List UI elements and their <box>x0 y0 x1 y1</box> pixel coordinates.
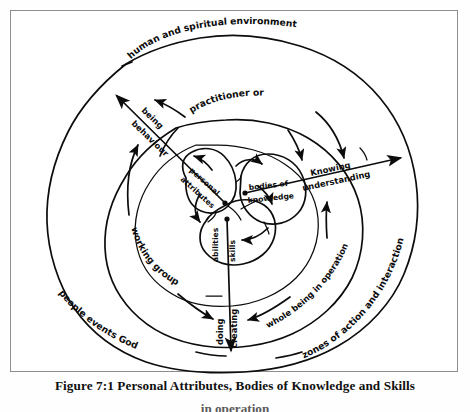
axis-behaviour-label: behaviour <box>130 118 172 159</box>
diagram-canvas: being behaviour Knowing understanding do… <box>0 0 470 412</box>
ring-second-bottom-right-label: whole being in operation <box>264 242 350 330</box>
figure-caption-continued: in operation <box>0 401 470 412</box>
ring-feedback-arrows <box>128 100 367 358</box>
axis-creating-label: creating <box>229 309 239 348</box>
blob-abilities-skills-label-line2: skills <box>228 240 237 262</box>
ring-second-top-label: practitioner or <box>187 87 265 115</box>
figure-page: being behaviour Knowing understanding do… <box>0 0 470 412</box>
ring-third-bottom-left-label: working group <box>129 225 181 287</box>
axis-doing-label: doing <box>215 318 225 345</box>
figure-caption: Figure 7:1 Personal Attributes, Bodies o… <box>0 378 470 394</box>
blob-abilities-skills-label-line1: abilities <box>211 227 220 262</box>
ring-outer-top-label: human and spiritual environment <box>125 15 298 61</box>
ring-outer-bottom-left-label: people events God <box>57 287 140 351</box>
blob-bodies-of-knowledge-label-line1: bodies of <box>248 179 289 192</box>
